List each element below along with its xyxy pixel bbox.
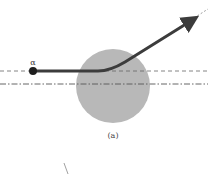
alpha-label: α bbox=[30, 58, 36, 67]
stray-mark bbox=[64, 163, 68, 174]
alpha-scattering-diagram: α (a) bbox=[0, 0, 208, 180]
alpha-particle bbox=[29, 67, 37, 75]
figure-caption: (a) bbox=[107, 131, 118, 140]
outgoing-dashed-extension bbox=[194, 9, 208, 18]
nucleus bbox=[76, 49, 150, 123]
